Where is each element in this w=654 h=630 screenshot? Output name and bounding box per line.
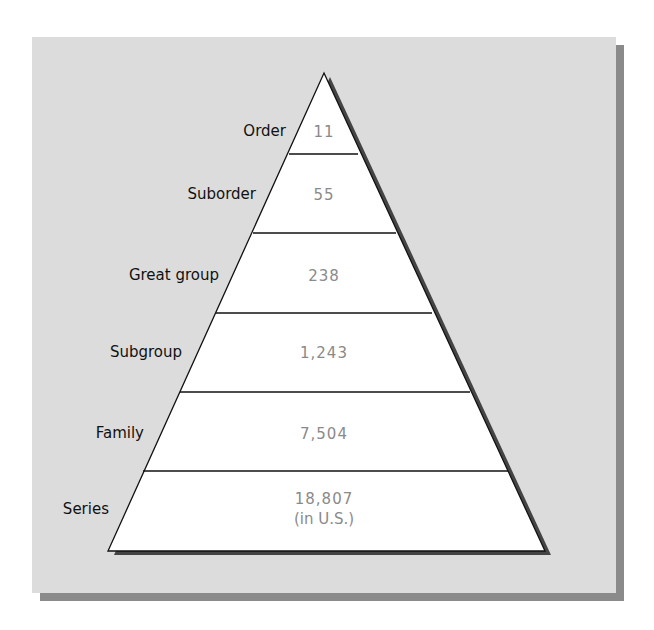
- level-label-subgroup: Subgroup: [110, 343, 182, 361]
- pyramid-graphic: [0, 0, 654, 630]
- level-label-family: Family: [96, 424, 144, 442]
- level-count-great-group: 238: [244, 266, 404, 286]
- level-count-family: 7,504: [244, 424, 404, 444]
- series-count: 18,807: [244, 489, 404, 509]
- level-count-subgroup: 1,243: [244, 343, 404, 363]
- level-count-suborder: 55: [244, 185, 404, 205]
- level-label-great-group: Great group: [129, 266, 219, 284]
- level-label-series: Series: [63, 500, 109, 518]
- level-count-series: 18,807 (in U.S.): [244, 489, 404, 529]
- level-count-order: 11: [244, 122, 404, 142]
- pyramid: [108, 73, 545, 551]
- series-note: (in U.S.): [244, 509, 404, 529]
